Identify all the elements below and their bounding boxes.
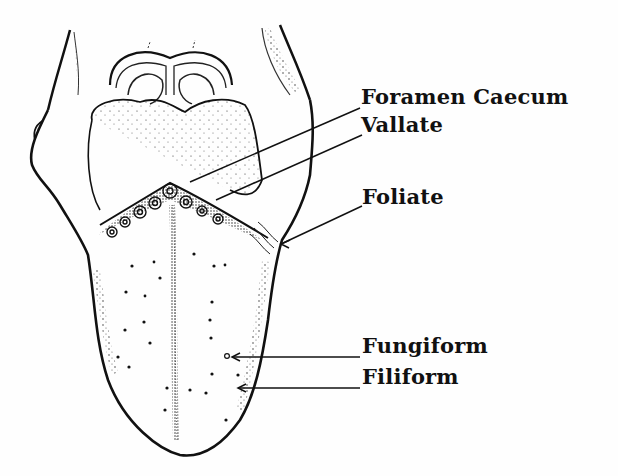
label-foramen-caecum: Foramen Caecum [361, 84, 568, 109]
label-filiform: Filiform [362, 364, 459, 389]
tongue-diagram: Foramen Caecum Vallate Foliate Fungiform… [0, 0, 618, 476]
epiglottis [110, 40, 232, 104]
label-fungiform: Fungiform [362, 333, 488, 358]
pharynx-walls [48, 25, 310, 110]
tongue-illustration [0, 0, 618, 476]
label-vallate: Vallate [361, 112, 443, 137]
label-foliate: Foliate [362, 184, 444, 209]
tongue-body [31, 100, 313, 456]
